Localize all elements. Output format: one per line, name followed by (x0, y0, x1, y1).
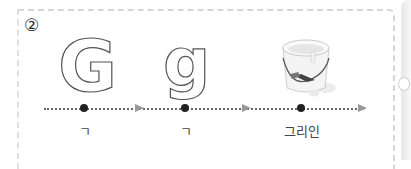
binder-hole (398, 77, 410, 91)
outline-letter-uppercase-g: G (58, 30, 117, 102)
paint-bucket-icon (271, 30, 341, 100)
arrow-right-icon (242, 104, 251, 112)
arrow-right-icon (358, 104, 367, 112)
timeline-dot (80, 104, 88, 112)
word-label: 그리인 (284, 121, 320, 140)
timeline-dot (181, 104, 189, 112)
step-number: ② (24, 17, 39, 34)
timeline-track (44, 108, 364, 112)
sound-label: ㄱ (180, 121, 192, 140)
arrow-right-icon (135, 104, 144, 112)
outline-letter-lowercase-g: g (163, 30, 210, 96)
sound-label: ㄱ (79, 121, 91, 140)
timeline-dot (297, 104, 305, 112)
